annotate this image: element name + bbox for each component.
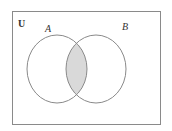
set-b-label: B [122,21,128,32]
venn-diagram: U A B [0,0,172,131]
set-a-label: A [44,23,52,34]
universe-label: U [18,18,25,29]
